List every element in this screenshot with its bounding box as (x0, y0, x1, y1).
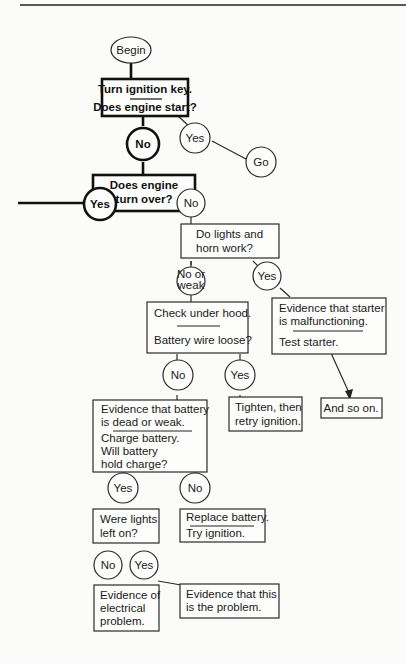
svg-text:is the problem.: is the problem. (186, 601, 261, 613)
lights-no-weak-circle: No or weak (177, 267, 206, 295)
lights-left-on-box: Were lights left on? (93, 509, 159, 543)
lights-yes-circle: Yes (253, 262, 281, 290)
svg-text:Battery wire loose?: Battery wire loose? (154, 334, 252, 346)
wire-yes-circle: Yes (225, 360, 255, 390)
lights-horn-box: Do lights and horn work? (181, 224, 279, 258)
svg-text:Check under hood.: Check under hood. (154, 307, 251, 319)
left-yes-circle: Yes (130, 551, 158, 579)
svg-text:Replace battery.: Replace battery. (186, 511, 269, 523)
svg-text:Begin: Begin (116, 44, 145, 56)
svg-text:Evidence that this: Evidence that this (186, 588, 277, 600)
turn-ignition-key-box: Turn ignition key. Does engine start? (93, 79, 197, 116)
svg-text:Yes: Yes (258, 270, 277, 282)
wire-no-circle: No (163, 360, 193, 390)
electrical-problem-box: Evidence of electrical problem. (94, 585, 161, 631)
svg-text:Test starter.: Test starter. (279, 336, 338, 348)
svg-text:Tighten, then: Tighten, then (235, 401, 302, 413)
svg-text:problem.: problem. (100, 615, 145, 627)
svg-text:No: No (184, 197, 199, 209)
svg-text:Turn ignition key.: Turn ignition key. (98, 83, 192, 95)
svg-text:Yes: Yes (114, 482, 133, 494)
svg-text:hold charge?: hold charge? (101, 458, 168, 470)
svg-text:Yes: Yes (90, 198, 110, 210)
svg-text:Were lights: Were lights (100, 513, 158, 525)
svg-text:is malfunctioning.: is malfunctioning. (279, 315, 368, 327)
this-is-problem-box: Evidence that this is the problem. (180, 584, 279, 618)
svg-text:Yes: Yes (186, 132, 205, 144)
turn-over-yes-circle: Yes (84, 188, 116, 220)
svg-text:No: No (135, 138, 150, 150)
svg-text:No: No (101, 559, 116, 571)
svg-text:Do lights and: Do lights and (196, 228, 263, 240)
svg-text:Does engine start?: Does engine start? (93, 101, 197, 113)
svg-text:Charge battery.: Charge battery. (101, 432, 179, 444)
svg-text:horn work?: horn work? (196, 242, 253, 254)
svg-text:weak: weak (177, 279, 205, 291)
turn-over-no-circle: No (177, 189, 205, 217)
start-no-circle: No (127, 128, 159, 160)
svg-text:turn over?: turn over? (116, 193, 173, 205)
svg-text:Evidence that starter: Evidence that starter (279, 302, 385, 314)
svg-text:Try ignition.: Try ignition. (186, 527, 245, 539)
svg-text:No: No (171, 369, 186, 381)
svg-text:is dead or weak.: is dead or weak. (101, 416, 185, 428)
svg-text:retry ignition.: retry ignition. (235, 415, 301, 427)
and-so-on-box: And so on. (321, 398, 382, 418)
begin-node: Begin (111, 37, 151, 63)
tighten-box: Tighten, then retry ignition. (229, 397, 302, 431)
battery-evidence-box: Evidence that battery is dead or weak. C… (93, 400, 209, 472)
troubleshooting-flowchart: Begin Turn ignition key. Does engine sta… (0, 0, 406, 664)
replace-battery-box: Replace battery. Try ignition. (180, 509, 269, 542)
svg-text:left on?: left on? (100, 527, 138, 539)
go-circle: Go (246, 147, 276, 177)
svg-text:And so on.: And so on. (324, 402, 379, 414)
left-no-circle: No (94, 551, 122, 579)
svg-text:Does engine: Does engine (110, 179, 178, 191)
svg-text:No: No (188, 482, 203, 494)
svg-text:Evidence of: Evidence of (100, 589, 161, 601)
svg-text:Evidence that battery: Evidence that battery (101, 403, 209, 415)
svg-text:Will battery: Will battery (101, 445, 158, 457)
svg-text:Yes: Yes (231, 369, 250, 381)
start-yes-circle: Yes (180, 123, 210, 153)
check-under-hood-box: Check under hood. Battery wire loose? (147, 302, 252, 353)
svg-text:electrical: electrical (100, 602, 145, 614)
hold-yes-circle: Yes (108, 473, 138, 503)
hold-no-circle: No (180, 473, 210, 503)
svg-text:Yes: Yes (135, 559, 154, 571)
svg-text:Go: Go (253, 156, 268, 168)
starter-evidence-box: Evidence that starter is malfunctioning.… (272, 298, 386, 354)
